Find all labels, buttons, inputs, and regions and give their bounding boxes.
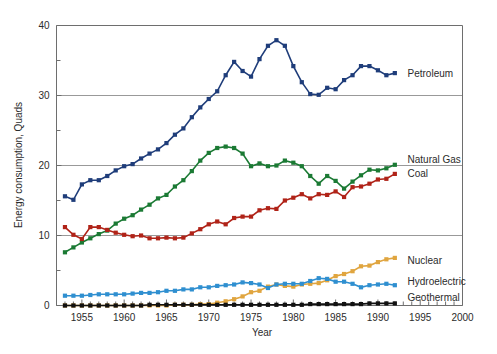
series-natural-gas: [63, 145, 397, 255]
series-marker: [71, 233, 75, 237]
series-marker: [190, 303, 194, 307]
series-marker: [71, 245, 75, 249]
series-marker: [376, 177, 380, 181]
series-marker: [156, 236, 160, 240]
series-marker: [147, 236, 151, 240]
y-axis-ticks: 010203040: [38, 20, 61, 311]
series-marker: [232, 303, 236, 307]
series-marker: [283, 282, 287, 286]
series-marker: [334, 87, 338, 91]
series-marker: [114, 222, 118, 226]
series-marker: [190, 115, 194, 119]
series-hydroelectric: [63, 276, 397, 298]
series-marker: [207, 285, 211, 289]
series-marker: [131, 213, 135, 217]
series-marker: [139, 303, 143, 307]
series-marker: [131, 303, 135, 307]
series-marker: [367, 264, 371, 268]
series-marker: [367, 64, 371, 68]
series-marker: [257, 208, 261, 212]
series-marker: [105, 292, 109, 296]
series-marker: [257, 282, 261, 286]
series-marker: [291, 161, 295, 165]
series-marker: [232, 146, 236, 150]
series-marker: [240, 152, 244, 156]
series-marker: [97, 178, 101, 182]
series-marker: [384, 257, 388, 261]
series-marker: [181, 236, 185, 240]
x-tick-label-1980: 1980: [282, 312, 305, 323]
y-tick-label-30: 30: [38, 90, 50, 101]
series-marker: [308, 174, 312, 178]
series-marker: [190, 287, 194, 291]
series-marker: [249, 290, 253, 294]
series-marker: [249, 164, 253, 168]
series-marker: [139, 233, 143, 237]
series-marker: [266, 286, 270, 290]
series-marker: [274, 38, 278, 42]
series-marker: [393, 256, 397, 260]
series-marker: [359, 64, 363, 68]
series-geothermal: [63, 301, 397, 307]
series-marker: [317, 276, 321, 280]
series-marker: [308, 196, 312, 200]
series-marker: [207, 151, 211, 155]
series-marker: [114, 303, 118, 307]
series-marker: [139, 156, 143, 160]
series-marker: [257, 303, 261, 307]
series-marker: [88, 303, 92, 307]
series-marker: [207, 97, 211, 101]
series-marker: [224, 283, 228, 287]
series-marker: [291, 196, 295, 200]
series-marker: [207, 222, 211, 226]
series-marker: [190, 169, 194, 173]
series-marker: [342, 78, 346, 82]
series-marker: [342, 187, 346, 191]
series-marker: [283, 303, 287, 307]
series-line: [65, 174, 395, 239]
series-marker: [350, 185, 354, 189]
series-marker: [122, 303, 126, 307]
series-marker: [97, 225, 101, 229]
series-marker: [198, 159, 202, 163]
series-marker: [80, 303, 84, 307]
series-marker: [105, 228, 109, 232]
series-marker: [300, 192, 304, 196]
series-marker: [384, 301, 388, 305]
series-marker: [240, 280, 244, 284]
series-marker: [334, 280, 338, 284]
series-marker: [97, 232, 101, 236]
series-marker: [164, 303, 168, 307]
series-marker: [308, 302, 312, 306]
y-tick-label-20: 20: [38, 160, 50, 171]
series-marker: [71, 303, 75, 307]
series-marker: [317, 93, 321, 97]
series-marker: [308, 279, 312, 283]
series-marker: [198, 105, 202, 109]
series-marker: [249, 215, 253, 219]
series-coal: [63, 172, 397, 241]
y-tick-label-40: 40: [38, 20, 50, 31]
x-tick-label-1990: 1990: [367, 312, 390, 323]
series-marker: [71, 294, 75, 298]
series-marker: [71, 198, 75, 202]
series-label-natural-gas: Natural Gas: [408, 154, 461, 165]
series-marker: [359, 173, 363, 177]
energy-consumption-line-chart: 010203040 195519601965197019751980198519…: [0, 0, 497, 354]
series-label-hydroelectric: Hydroelectric: [408, 276, 466, 287]
series-marker: [240, 303, 244, 307]
series-marker: [384, 166, 388, 170]
series-marker: [173, 236, 177, 240]
series-marker: [215, 89, 219, 93]
series-marker: [80, 182, 84, 186]
series-marker: [63, 194, 67, 198]
series-marker: [156, 303, 160, 307]
series-marker: [325, 302, 329, 306]
series-marker: [376, 260, 380, 264]
series-label-geothermal: Geothermal: [408, 292, 460, 303]
series-marker: [240, 294, 244, 298]
series-marker: [291, 282, 295, 286]
series-marker: [384, 177, 388, 181]
x-tick-label-1965: 1965: [155, 312, 178, 323]
series-marker: [376, 168, 380, 172]
